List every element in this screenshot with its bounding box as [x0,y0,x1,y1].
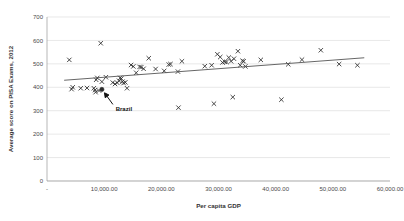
x-tick-label-50000: 50,000.00 [319,186,346,192]
x-axis-title: Per capita GDP [196,202,241,209]
x-tick-label-60000: 60,000.00 [377,186,404,192]
y-tick-label-100: 100 [33,155,44,161]
y-axis-title: Average score on PISA Exams, 2012 [7,45,14,152]
y-tick-label-400: 400 [33,84,44,90]
y-tick-label-300: 300 [33,108,44,114]
x-tick-label-30000: 30,000.00 [205,186,232,192]
x-tick-label-0: - [46,186,48,192]
y-tick-label-700: 700 [33,14,44,20]
pisa-gdp-scatter-chart: 0100200300400500600700 -10,000.0020,000.… [0,0,404,221]
x-tick-label-20000: 20,000.00 [148,186,175,192]
chart-svg: 0100200300400500600700 -10,000.0020,000.… [0,0,404,221]
y-tick-label-200: 200 [33,131,44,137]
y-tick-label-600: 600 [33,38,44,44]
y-tick-label-500: 500 [33,61,44,67]
x-tick-label-10000: 10,000.00 [91,186,118,192]
brazil-data-point [100,87,104,91]
brazil-annotation-label: Brazil [116,106,133,112]
x-tick-label-40000: 40,000.00 [262,186,289,192]
